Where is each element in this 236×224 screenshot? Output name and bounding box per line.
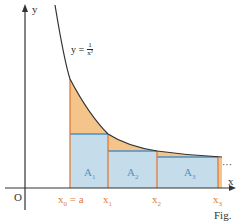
tick-label-x1: x1: [103, 194, 112, 208]
excess-region-1: [70, 79, 108, 134]
figure-caption: Fig.: [214, 210, 231, 221]
function-label: y = 1 x²: [71, 42, 93, 57]
tick-label-x3: x3: [213, 194, 222, 208]
tick-label-x0: x0 = a: [58, 194, 84, 208]
riemann-sum-figure: y x O y = 1 x² A1 A2 A3 ··· x0 = a x1 x2…: [0, 0, 236, 224]
excess-region-2: [108, 134, 157, 151]
diagram-canvas: [0, 0, 236, 224]
y-axis-arrow-icon: [22, 4, 28, 12]
area-label-a1: A1: [84, 167, 95, 181]
area-label-a2: A2: [127, 167, 138, 181]
x-axis-label: x: [228, 176, 234, 187]
fraction-denominator: x²: [87, 50, 93, 57]
origin-label: O: [14, 192, 22, 203]
y-axis-label: y: [32, 4, 38, 15]
area-label-a3: A3: [184, 167, 195, 181]
function-label-fraction: 1 x²: [87, 42, 93, 57]
function-label-prefix: y =: [71, 45, 84, 55]
tick-label-x2: x2: [152, 194, 161, 208]
continuation-dots: ···: [222, 160, 232, 170]
